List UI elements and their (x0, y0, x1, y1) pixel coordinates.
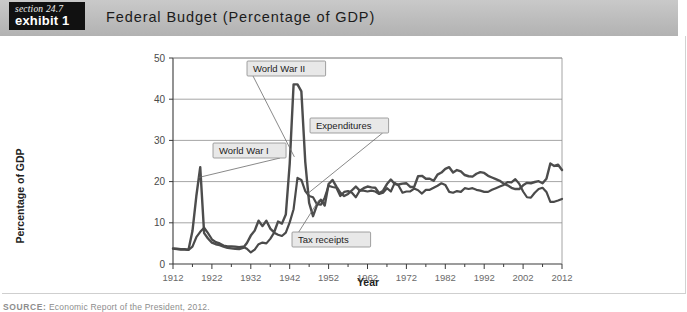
x-tick-2012: 2012 (551, 272, 572, 283)
federal-budget-line-chart: 01020304050 1912192219321942195219621972… (0, 36, 686, 294)
exhibit-title: Federal Budget (Percentage of GDP) (106, 9, 375, 25)
y-tick-40: 40 (154, 94, 166, 105)
annotation-expenditures: Expenditures (307, 118, 388, 194)
y-tick-0: 0 (159, 259, 165, 270)
y-axis-title: Percentage of GDP (14, 148, 26, 243)
y-axis-tick-labels: 01020304050 (154, 53, 166, 270)
badge-exhibit-label: exhibit 1 (15, 14, 85, 28)
y-tick-10: 10 (154, 217, 166, 228)
source-footer: SOURCE: Economic Report of the President… (0, 295, 687, 312)
chart-container: 01020304050 1912192219321942195219621972… (0, 36, 686, 294)
exhibit-panel: section 24.7 exhibit 1 Federal Budget (P… (0, 0, 687, 312)
chart-series (173, 84, 562, 252)
x-tick-1982: 1982 (435, 272, 456, 283)
source-text: Economic Report of the President, 2012. (46, 302, 209, 312)
x-tick-1952: 1952 (318, 272, 339, 283)
chart-gridlines (173, 58, 562, 223)
exhibit-badge: section 24.7 exhibit 1 (9, 2, 85, 30)
y-tick-50: 50 (154, 53, 166, 64)
x-axis-title: Year (357, 276, 379, 288)
annotation-label: Tax receipts (298, 234, 349, 245)
annotation-world-war-i: World War I (199, 143, 286, 177)
x-tick-1942: 1942 (279, 272, 300, 283)
x-tick-1932: 1932 (240, 272, 261, 283)
annotation-label: Expenditures (316, 120, 372, 131)
x-tick-1992: 1992 (474, 272, 495, 283)
annotation-tax-receipts: Tax receipts (292, 200, 371, 247)
y-tick-20: 20 (154, 176, 166, 187)
annotation-world-war-ii: World War II (247, 61, 326, 157)
source-note: SOURCE: Economic Report of the President… (3, 302, 210, 312)
y-tick-30: 30 (154, 135, 166, 146)
source-label: SOURCE: (3, 302, 46, 312)
x-tick-1922: 1922 (201, 272, 222, 283)
header-right-margin (678, 0, 687, 36)
annotation-label: World War II (253, 63, 305, 74)
x-tick-1972: 1972 (396, 272, 417, 283)
annotation-label: World War I (219, 145, 269, 156)
x-tick-1912: 1912 (162, 272, 183, 283)
x-tick-2002: 2002 (513, 272, 534, 283)
series-expenditures (173, 84, 562, 249)
